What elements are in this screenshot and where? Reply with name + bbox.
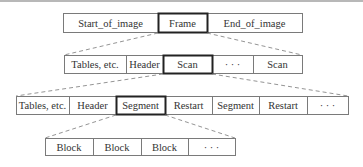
cell-label-start-of-image: Start_of_image bbox=[78, 18, 143, 29]
cell-label-block: Block bbox=[152, 142, 178, 153]
cell-label-frame: Frame bbox=[169, 18, 196, 29]
cell-label-ellipsis: · · · bbox=[204, 142, 220, 153]
cell-label-restart: Restart bbox=[174, 100, 204, 111]
expansion-line-frame-right bbox=[207, 33, 302, 55]
jpeg-structure-diagram: Start_of_imageFrameEnd_of_imageTables, e… bbox=[0, 0, 363, 167]
expansion-line-frame-left bbox=[64, 33, 158, 55]
cell-label-ellipsis: · · · bbox=[320, 100, 336, 111]
cell-label-tables-etc: Tables, etc. bbox=[19, 100, 66, 111]
cell-label-block: Block bbox=[104, 142, 130, 153]
cell-label-tables-etc: Tables, etc. bbox=[71, 59, 118, 70]
row-image: Start_of_imageFrameEnd_of_image bbox=[64, 13, 303, 33]
expansion-line-scan-right bbox=[212, 74, 348, 96]
row-frame: Tables, etc.HeaderScan· · ·Scan bbox=[65, 55, 303, 74]
row-scan: Tables, etc.HeaderSegmentRestartSegmentR… bbox=[17, 96, 349, 115]
cell-label-header: Header bbox=[129, 59, 160, 70]
expansion-line-segment-right bbox=[165, 115, 235, 138]
cell-label-restart: Restart bbox=[268, 100, 298, 111]
expansion-line-segment-left bbox=[45, 115, 116, 138]
cell-label-header: Header bbox=[77, 100, 108, 111]
expansion-line-scan-left bbox=[16, 74, 163, 96]
cell-label-scan: Scan bbox=[177, 59, 198, 70]
cell-label-segment: Segment bbox=[217, 100, 254, 111]
row-segment: BlockBlockBlock· · · bbox=[46, 138, 236, 156]
cell-label-segment: Segment bbox=[122, 100, 159, 111]
cell-label-block: Block bbox=[56, 142, 82, 153]
cell-label-ellipsis: · · · bbox=[225, 59, 241, 70]
cell-label-end-of-image: End_of_image bbox=[224, 18, 286, 29]
cell-label-scan: Scan bbox=[267, 59, 288, 70]
